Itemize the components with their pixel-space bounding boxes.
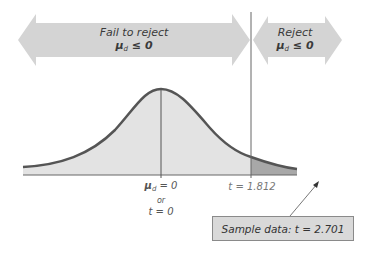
sample-pointer-line [290,184,317,216]
reject-label: Reject μd ≤ 0 [265,26,325,56]
reject-hypothesis: μd ≤ 0 [265,39,325,56]
reject-title: Reject [265,26,325,39]
center-label: μd = 0 or t = 0 [131,180,191,217]
fail-to-reject-title: Fail to reject [84,26,184,39]
center-or-label: or [131,195,191,206]
critical-value-label: t = 1.812 [222,181,282,192]
sample-data-box: Sample data: t = 2.701 [212,216,354,241]
fail-to-reject-label: Fail to reject μd ≤ 0 [84,26,184,56]
fail-to-reject-hypothesis: μd ≤ 0 [84,39,184,56]
sample-pointer-arrowhead-icon [313,181,319,188]
center-mu-label: μd = 0 [131,180,191,195]
center-t-label: t = 0 [131,206,191,217]
